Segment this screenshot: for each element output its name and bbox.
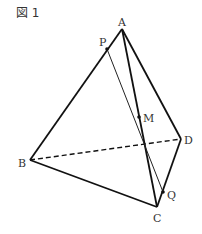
label-M: M [143, 112, 154, 125]
edge-BD-hidden [30, 139, 181, 160]
label-A: A [117, 16, 127, 29]
tetrahedron-diagram: A P M D B Q C [0, 0, 202, 234]
label-D: D [184, 134, 193, 147]
edge-BC [30, 160, 157, 207]
point-M [137, 115, 141, 119]
point-Q [161, 190, 165, 194]
label-P: P [99, 36, 107, 49]
label-B: B [18, 157, 26, 170]
label-C: C [153, 212, 161, 225]
segment-PQ [107, 49, 163, 192]
label-Q: Q [167, 189, 176, 202]
